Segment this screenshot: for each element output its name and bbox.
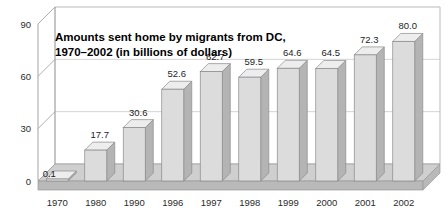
x-tick-label-1990: 1990 bbox=[124, 197, 145, 208]
chart-title-line-1: Amounts sent home by migrants from DC, bbox=[55, 31, 286, 43]
value-label-1990: 30.6 bbox=[129, 107, 148, 118]
x-tick-label-2002: 2002 bbox=[393, 197, 414, 208]
value-label-1999: 64.6 bbox=[283, 47, 302, 58]
x-tick-label-2001: 2001 bbox=[355, 197, 376, 208]
bar-2002 bbox=[393, 33, 423, 181]
value-label-1998: 59.5 bbox=[245, 56, 264, 67]
bar-1980 bbox=[85, 142, 115, 181]
bar-2001 bbox=[354, 47, 384, 181]
bar-1996 bbox=[162, 81, 192, 181]
value-label-2000: 64.5 bbox=[322, 47, 341, 58]
bar-chart-svg: 0.117.730.652.662.759.564.664.572.380.0 … bbox=[0, 0, 446, 219]
value-label-1996: 52.6 bbox=[168, 68, 187, 79]
value-label-2001: 72.3 bbox=[360, 34, 379, 45]
bar-1990 bbox=[123, 120, 153, 181]
x-tick-label-1996: 1996 bbox=[162, 197, 183, 208]
bar-2000 bbox=[316, 60, 346, 181]
value-label-2002: 80.0 bbox=[399, 20, 418, 31]
x-tick-label-1998: 1998 bbox=[239, 197, 260, 208]
y-tick-label-60: 60 bbox=[20, 71, 31, 82]
y-tick-label-90: 90 bbox=[20, 19, 31, 30]
bar-1998 bbox=[239, 69, 269, 181]
value-label-1970: 0.1 bbox=[43, 168, 56, 179]
chart-figure: 0.117.730.652.662.759.564.664.572.380.0 … bbox=[0, 0, 446, 219]
value-label-1980: 17.7 bbox=[91, 129, 110, 140]
chart-title-line-2: 1970–2002 (in billions of dollars) bbox=[55, 46, 232, 58]
x-tick-label-2000: 2000 bbox=[316, 197, 337, 208]
bar-1997 bbox=[200, 64, 230, 181]
x-tick-label-1997: 1997 bbox=[201, 197, 222, 208]
bar-1999 bbox=[277, 60, 307, 181]
y-tick-label-30: 30 bbox=[20, 123, 31, 134]
y-tick-label-0: 0 bbox=[26, 176, 31, 187]
x-tick-label-1970: 1970 bbox=[47, 197, 68, 208]
x-tick-label-1999: 1999 bbox=[278, 197, 299, 208]
x-tick-label-1980: 1980 bbox=[85, 197, 106, 208]
